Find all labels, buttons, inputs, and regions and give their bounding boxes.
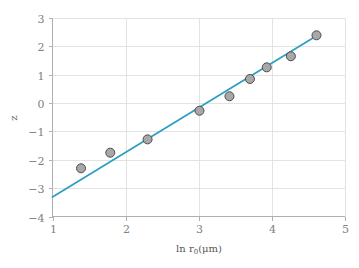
data-point-marker <box>195 106 204 115</box>
y-tick-label: 3 <box>38 13 45 26</box>
scatter-plot: 12345 3210−1−2−3−4 z ln r0(μm) <box>0 0 359 268</box>
data-point-marker <box>262 63 271 72</box>
chart-figure: 12345 3210−1−2−3−4 z ln r0(μm) <box>0 0 359 268</box>
y-tick-label: −2 <box>28 155 44 168</box>
y-tick-label: 0 <box>38 98 45 111</box>
y-tick-label: 2 <box>38 41 45 54</box>
data-point-marker <box>106 148 115 157</box>
x-tick-label: 1 <box>50 223 57 236</box>
x-tick-label: 2 <box>123 223 130 236</box>
x-axis-title-prefix: ln r <box>176 243 194 254</box>
x-tick-label: 5 <box>342 223 349 236</box>
data-point-marker <box>225 92 234 101</box>
x-tick-label: 3 <box>196 223 203 236</box>
y-tick-label: −1 <box>28 126 44 139</box>
data-point-marker <box>286 52 295 61</box>
y-tick-label: 1 <box>38 70 45 83</box>
y-axis-title: z <box>8 115 19 120</box>
data-point-marker <box>143 135 152 144</box>
data-point-marker <box>312 31 321 40</box>
x-axis-title-suffix: (μm) <box>198 243 222 254</box>
y-tick-label: −4 <box>28 212 44 225</box>
y-tick-label: −3 <box>28 183 44 196</box>
data-point-marker <box>245 74 254 83</box>
data-point-marker <box>77 164 86 173</box>
x-tick-label: 4 <box>269 223 276 236</box>
